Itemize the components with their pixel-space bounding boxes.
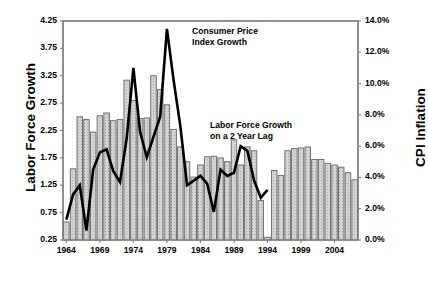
bar xyxy=(164,105,170,240)
bar xyxy=(191,177,197,240)
x-tick: 1974 xyxy=(116,245,150,255)
y-tick-right: 12.0% xyxy=(365,46,399,56)
x-tick: 1994 xyxy=(250,245,284,255)
y-tick-left: 2.25 xyxy=(27,125,57,135)
bar xyxy=(104,113,110,240)
bar xyxy=(251,151,257,240)
annotation-lfg-line1: Labor Force Growth xyxy=(210,120,292,131)
bar xyxy=(292,149,298,240)
annotation-cpi-growth: Consumer Price Index Growth xyxy=(192,26,258,48)
bar xyxy=(131,100,137,240)
bar xyxy=(278,175,284,240)
y-tick-left: 3.25 xyxy=(27,70,57,80)
y-tick-left: 3.75 xyxy=(27,42,57,52)
y-tick-left: 0.75 xyxy=(27,207,57,217)
bar xyxy=(305,147,311,240)
bar xyxy=(258,201,264,240)
y-tick-right: 0.0% xyxy=(365,234,399,244)
y-tick-left: 1.25 xyxy=(27,179,57,189)
y-tick-right: 10.0% xyxy=(365,78,399,88)
bar xyxy=(312,160,318,240)
y-tick-right: 14.0% xyxy=(365,15,399,25)
bar xyxy=(171,129,177,240)
bar xyxy=(352,180,358,240)
x-tick: 1989 xyxy=(217,245,251,255)
bar xyxy=(338,167,344,240)
bar xyxy=(271,170,277,240)
annotation-lfg-line2: on a 2 Year Lag xyxy=(210,131,292,142)
bar xyxy=(325,163,331,240)
x-tick: 1999 xyxy=(284,245,318,255)
x-tick: 2004 xyxy=(318,245,352,255)
y-tick-right: 4.0% xyxy=(365,171,399,181)
bar xyxy=(285,151,291,240)
bar xyxy=(231,140,237,240)
bar xyxy=(111,121,117,240)
y-tick-left: 4.25 xyxy=(27,15,57,25)
bar xyxy=(124,80,130,240)
y-tick-right: 8.0% xyxy=(365,109,399,119)
bar xyxy=(345,173,351,240)
bar xyxy=(298,148,304,240)
x-tick: 1969 xyxy=(83,245,117,255)
y-tick-right: 6.0% xyxy=(365,140,399,150)
x-tick: 1979 xyxy=(150,245,184,255)
annotation-cpi-line1: Consumer Price xyxy=(192,26,258,37)
bar xyxy=(204,157,210,240)
bar xyxy=(178,147,184,240)
bar xyxy=(97,116,103,240)
bar xyxy=(238,165,244,240)
x-tick: 1964 xyxy=(49,245,83,255)
bar xyxy=(151,76,157,240)
annotation-cpi-line2: Index Growth xyxy=(192,37,258,48)
bar xyxy=(332,165,338,240)
y-axis-title-right: CPI Inflation xyxy=(413,33,428,223)
y-tick-left: 1.75 xyxy=(27,152,57,162)
bar xyxy=(77,117,83,240)
y-tick-right: 2.0% xyxy=(365,203,399,213)
x-tick: 1984 xyxy=(183,245,217,255)
y-tick-left: 2.75 xyxy=(27,97,57,107)
bar xyxy=(318,160,324,240)
bar xyxy=(144,118,150,240)
annotation-labor-force-growth: Labor Force Growth on a 2 Year Lag xyxy=(210,120,292,142)
bar xyxy=(64,222,70,240)
y-tick-left: 0.25 xyxy=(27,234,57,244)
